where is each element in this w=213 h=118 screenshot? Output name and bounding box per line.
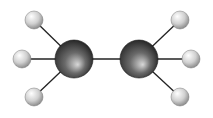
ethane-molecule-diagram xyxy=(0,0,213,118)
carbon-atom-C2 xyxy=(120,40,158,78)
hydrogen-atom-H1 xyxy=(25,11,43,29)
hydrogen-atom-H6 xyxy=(171,88,189,106)
hydrogen-atom-H2 xyxy=(13,50,31,68)
hydrogen-atom-H3 xyxy=(25,88,43,106)
hydrogen-atom-H4 xyxy=(171,11,189,29)
bonds-group xyxy=(22,20,191,97)
hydrogen-atom-H5 xyxy=(182,50,200,68)
carbon-atom-C1 xyxy=(55,40,93,78)
